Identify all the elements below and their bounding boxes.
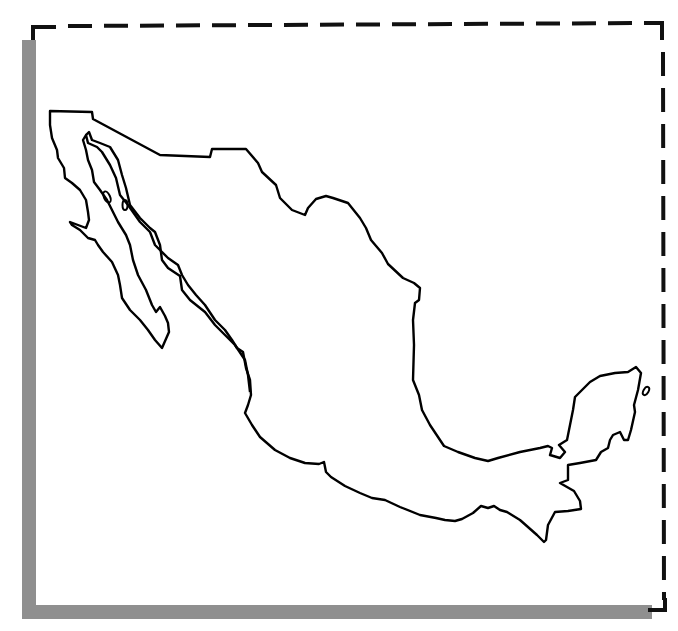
mexico-outline-map — [0, 0, 678, 631]
dashed-border — [33, 23, 665, 610]
map-frame — [0, 0, 678, 631]
island-cozumel — [642, 386, 651, 396]
mainland-outline — [50, 111, 641, 542]
island-tiburon — [102, 190, 113, 203]
